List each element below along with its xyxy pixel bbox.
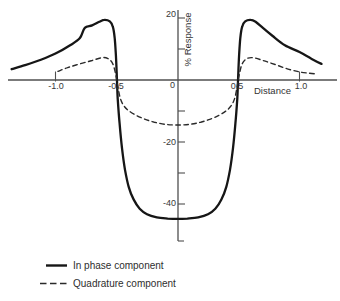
y-tick-label-neg40: -40: [150, 198, 176, 208]
legend-label-in-phase: In phase component: [73, 260, 164, 271]
x-tick-label-neg1: -1.0: [41, 81, 71, 91]
x-axis-title: Distance: [254, 86, 291, 96]
figure-canvas: 20 0 -20 -40 -1.0 -0.5 0.5 1.0 Distance …: [0, 0, 340, 301]
plot-area: [0, 0, 340, 301]
legend-item-quadrature: Quadrature component: [40, 278, 176, 289]
y-tick-label-neg20: -20: [150, 137, 176, 147]
x-tick-label-05: 0.5: [222, 81, 252, 91]
legend-label-quadrature: Quadrature component: [73, 278, 176, 289]
y-axis-title: % Response: [183, 11, 194, 69]
legend-item-in-phase: In phase component: [46, 260, 164, 271]
x-tick-label-neg05: -0.5: [101, 81, 131, 91]
origin-label: 0: [149, 80, 175, 90]
solid-line-swatch: [46, 263, 67, 268]
y-tick-label-20: 20: [150, 9, 176, 19]
in-phase-curve: [12, 20, 322, 219]
dashed-line-swatch: [40, 281, 67, 286]
